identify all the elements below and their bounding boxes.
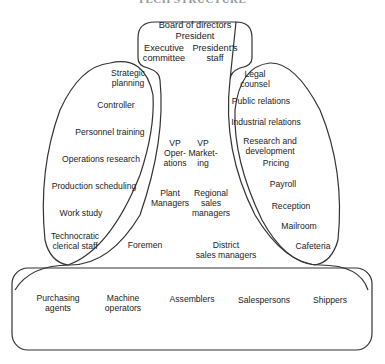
reception-label: Reception bbox=[272, 201, 311, 211]
research-development-label: Research anddevelopment bbox=[243, 136, 297, 156]
cafeteria-label: Cafeteria bbox=[296, 241, 331, 251]
board-of-directors-label: Board of directors bbox=[159, 20, 232, 30]
strategic-planning-label: Strategicplanning bbox=[111, 68, 145, 88]
payroll-label: Payroll bbox=[270, 179, 296, 189]
president-label: President bbox=[176, 31, 215, 41]
executive-committee-label: Executivecommittee bbox=[143, 43, 185, 63]
regional-sales-managers-label: Regionalsalesmanagers bbox=[192, 188, 230, 218]
operations-research-label: Operations research bbox=[62, 154, 140, 164]
vp-marketing-label: VPMarket-ing bbox=[188, 138, 217, 168]
machine-operators-label: Machineoperators bbox=[105, 293, 141, 313]
work-study-label: Work study bbox=[60, 208, 103, 218]
personnel-training-label: Personnel training bbox=[75, 127, 144, 137]
assemblers-label: Assemblers bbox=[170, 294, 215, 304]
pricing-label: Pricing bbox=[263, 158, 289, 168]
district-sales-managers-label: Districtsales managers bbox=[196, 240, 257, 260]
technocratic-clerical-staff-label: Technocraticclerical staff bbox=[51, 231, 99, 251]
shippers-label: Shippers bbox=[313, 295, 347, 305]
foremen-label: Foremen bbox=[128, 240, 162, 250]
vp-operations-label: VPOper-ations bbox=[164, 138, 187, 168]
industrial-relations-label: Industrial relations bbox=[231, 117, 301, 127]
salespersons-label: Salespersons bbox=[238, 295, 290, 305]
public-relations-label: Public relations bbox=[232, 96, 290, 106]
production-scheduling-label: Production scheduling bbox=[52, 181, 137, 191]
purchasing-agents-label: Purchasingagents bbox=[37, 293, 80, 313]
plant-managers-label: PlantManagers bbox=[151, 188, 189, 208]
presidents-staff-label: President'sstaff bbox=[192, 43, 237, 63]
controller-label: Controller bbox=[97, 100, 134, 110]
legal-counsel-label: Legalcounsel bbox=[240, 69, 270, 89]
mailroom-label: Mailroom bbox=[281, 221, 316, 231]
organization-diagram: TECH STRUCTURE Board of directors Presid… bbox=[0, 0, 385, 364]
